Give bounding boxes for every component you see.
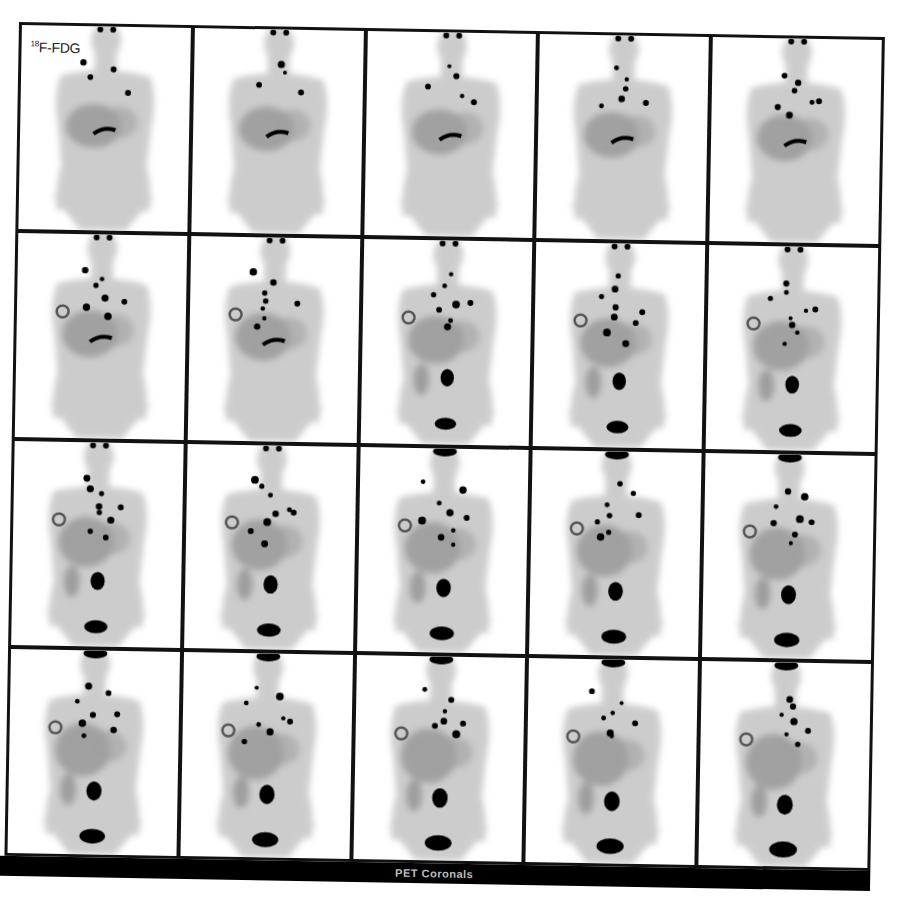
- coronal-slice-4: [537, 34, 709, 241]
- pet-slice-image: [7, 649, 179, 856]
- pet-slice-image: [11, 441, 183, 648]
- pet-slice-image: [18, 25, 190, 232]
- pet-slice-image: [529, 450, 701, 657]
- coronal-slice-18: [353, 655, 525, 862]
- pet-slice-image: [709, 37, 881, 244]
- coronal-slice-2: [191, 28, 363, 235]
- pet-slice-image: [533, 242, 705, 449]
- pet-slice-image: [15, 233, 187, 440]
- pet-slice-image: [180, 652, 352, 859]
- pet-coronal-montage: 18F-FDG PET Coronals: [4, 22, 885, 889]
- coronal-slice-1: 18F-FDG: [18, 25, 190, 232]
- coronal-slice-5: [709, 37, 881, 244]
- pet-slice-image: [357, 447, 529, 654]
- coronal-slice-8: [360, 239, 532, 446]
- coronal-slice-20: [699, 661, 871, 868]
- coronal-slice-11: [11, 441, 183, 648]
- pet-slice-image: [526, 658, 698, 865]
- pet-slice-image: [706, 245, 878, 452]
- coronal-slice-6: [15, 233, 187, 440]
- slice-grid: 18F-FDG: [4, 22, 884, 871]
- coronal-slice-9: [533, 242, 705, 449]
- pet-slice-image: [702, 453, 874, 660]
- pet-slice-image: [188, 236, 360, 443]
- tracer-name: F-FDG: [39, 39, 81, 56]
- coronal-slice-19: [526, 658, 698, 865]
- pet-slice-image: [699, 661, 871, 868]
- coronal-slice-7: [188, 236, 360, 443]
- coronal-slice-15: [702, 453, 874, 660]
- coronal-slice-14: [529, 450, 701, 657]
- tracer-label: 18F-FDG: [30, 39, 80, 56]
- pet-slice-image: [184, 444, 356, 651]
- coronal-slice-13: [357, 447, 529, 654]
- pet-slice-image: [191, 28, 363, 235]
- coronal-slice-17: [180, 652, 352, 859]
- pet-slice-image: [364, 31, 536, 238]
- pet-slice-image: [353, 655, 525, 862]
- coronal-slice-3: [364, 31, 536, 238]
- coronal-slice-10: [706, 245, 878, 452]
- pet-slice-image: [537, 34, 709, 241]
- pet-slice-image: [360, 239, 532, 446]
- coronal-slice-16: [7, 649, 179, 856]
- coronal-slice-12: [184, 444, 356, 651]
